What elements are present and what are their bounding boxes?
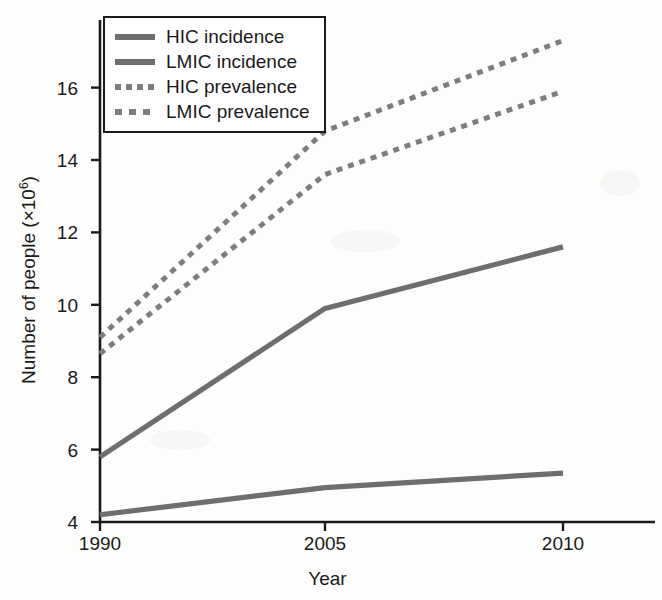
- legend-swatch-solid-line-icon: [115, 34, 155, 40]
- legend-swatch-dotted-line-icon: [115, 109, 155, 115]
- legend-item-lmic-incidence: LMIC incidence: [115, 49, 310, 74]
- legend-item-label: HIC incidence: [166, 27, 284, 46]
- legend-item-hic-prevalence: HIC prevalence: [115, 74, 310, 99]
- series-line-hic-incidence: [100, 473, 563, 515]
- chart-figure: Number of people (×106) 46810121416 1990…: [0, 0, 662, 600]
- legend-item-lmic-prevalence: LMIC prevalence: [115, 99, 310, 124]
- legend-item-hic-incidence: HIC incidence: [115, 24, 310, 49]
- series-line-lmic-incidence: [100, 247, 563, 457]
- legend-item-label: LMIC incidence: [166, 52, 297, 71]
- plot-area: [0, 0, 662, 600]
- legend-swatch-dotted-line-icon: [115, 84, 155, 90]
- legend-item-label: LMIC prevalence: [166, 102, 310, 121]
- legend-item-label: HIC prevalence: [166, 77, 297, 96]
- legend-swatch-solid-line-icon: [115, 59, 155, 65]
- chart-legend: HIC incidenceLMIC incidenceHIC prevalenc…: [103, 16, 326, 133]
